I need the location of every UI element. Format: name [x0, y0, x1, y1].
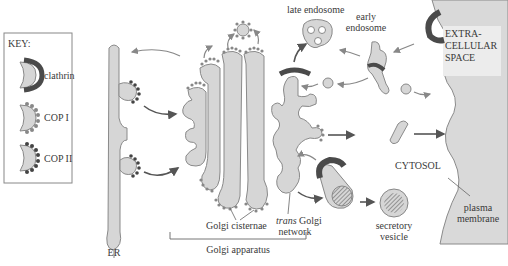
transport-vesicle: [401, 84, 411, 94]
label-early-endosome-2: endosome: [346, 22, 387, 33]
label-extracellular-1: EXTRA-: [445, 28, 482, 39]
late-endosome: [303, 20, 333, 48]
label-extracellular-3: SPACE: [445, 52, 475, 63]
label-trans-italic: trans: [276, 215, 297, 226]
label-trans-golgi-rest: Golgi: [297, 215, 323, 226]
endoplasmic-reticulum: [107, 45, 141, 258]
key-title: KEY:: [8, 38, 30, 49]
key-label-copII: COP II: [44, 153, 72, 164]
label-extracellular-2: CELLULAR: [445, 40, 498, 51]
label-secretory-vesicle-2: vesicle: [380, 231, 408, 242]
clathrin-coated-secretory-vesicle: [318, 160, 353, 208]
transport-vesicle: [323, 78, 333, 88]
key-label-copI: COP I: [44, 112, 69, 123]
key-label-clathrin: clathrin: [44, 70, 75, 81]
label-trans-golgi-network-1: trans Golgi: [276, 215, 322, 226]
early-endosome: [368, 42, 390, 94]
label-golgi-apparatus: Golgi apparatus: [206, 244, 270, 255]
label-golgi-cisternae: Golgi cisternae: [206, 220, 267, 231]
label-early-endosome-1: early: [356, 11, 376, 22]
vesicular-transport-diagram: KEY: clathrin COP I COP II late endosome…: [0, 0, 508, 266]
clathrin-coat-tgn: [280, 70, 310, 74]
label-trans-golgi-network-2: network: [279, 226, 312, 237]
label-plasma-membrane-2: membrane: [457, 213, 500, 224]
golgi-cisternae: [183, 20, 269, 212]
label-secretory-vesicle-1: secretory: [376, 220, 413, 231]
secretory-vesicle: [380, 189, 408, 217]
transport-vesicle-elongated: [390, 121, 408, 144]
label-plasma-membrane-1: plasma: [464, 202, 493, 213]
label-late-endosome: late endosome: [287, 4, 345, 15]
copI-vesicle: [233, 20, 252, 39]
label-cytosol: CYTOSOL: [395, 160, 441, 171]
label-er: ER: [108, 247, 121, 258]
